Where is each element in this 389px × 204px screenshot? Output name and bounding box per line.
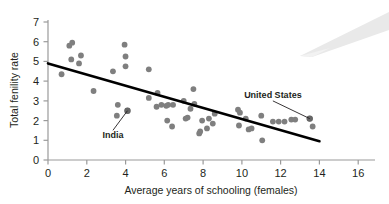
x-tick-label-2: 2 — [84, 167, 90, 179]
axes — [48, 20, 375, 160]
data-point — [282, 119, 288, 125]
data-point — [110, 68, 116, 74]
united-states-label: United States — [244, 90, 302, 100]
data-point — [123, 54, 129, 60]
data-point — [123, 63, 129, 69]
y-tick-label-4: 4 — [33, 75, 39, 87]
y-tick-label-7: 7 — [33, 16, 39, 28]
y-tick-label-5: 5 — [33, 55, 39, 67]
data-point — [114, 113, 120, 119]
india-label: India — [102, 130, 124, 140]
x-axis-title: Average years of schooling (females) — [124, 184, 297, 196]
x-tick-label-16: 16 — [352, 167, 364, 179]
data-point — [259, 137, 265, 143]
data-point — [68, 57, 74, 63]
data-point — [69, 40, 75, 46]
data-point — [164, 118, 170, 124]
y-tick-label-0: 0 — [33, 154, 39, 166]
decorative-streak — [300, 12, 389, 57]
x-tick-label-10: 10 — [236, 167, 248, 179]
y-axis-title: Total fenility rate — [8, 52, 20, 128]
data-point — [197, 129, 203, 135]
x-tick-label-14: 14 — [313, 167, 325, 179]
data-point — [191, 86, 197, 92]
fertility-schooling-scatter-chart: 0 1 2 3 4 5 6 7 0 2 4 6 8 10 12 — [0, 0, 389, 204]
data-point — [78, 53, 84, 59]
data-point — [76, 61, 82, 67]
data-point — [206, 116, 212, 122]
data-point — [170, 102, 176, 108]
data-point — [237, 110, 243, 116]
x-tick-label-8: 8 — [200, 167, 206, 179]
data-point — [188, 106, 194, 112]
y-tick-label-1: 1 — [33, 134, 39, 146]
trend-line — [48, 63, 319, 141]
y-axis-ticks: 0 1 2 3 4 5 6 7 — [33, 16, 48, 166]
data-point — [91, 88, 97, 94]
data-point — [199, 118, 205, 124]
data-point — [292, 117, 298, 123]
x-tick-label-6: 6 — [161, 167, 167, 179]
data-point — [146, 95, 152, 101]
data-point — [115, 102, 121, 108]
data-point — [185, 115, 191, 121]
x-tick-label-4: 4 — [123, 167, 129, 179]
data-point — [204, 126, 210, 132]
chart-canvas: 0 1 2 3 4 5 6 7 0 2 4 6 8 10 12 — [0, 0, 389, 204]
x-tick-label-0: 0 — [45, 167, 51, 179]
data-point — [236, 123, 242, 129]
data-point — [159, 102, 165, 108]
data-point — [249, 126, 255, 132]
y-tick-label-2: 2 — [33, 115, 39, 127]
data-point — [310, 124, 316, 130]
data-point — [122, 42, 128, 48]
data-point — [169, 124, 175, 130]
data-point — [276, 119, 282, 125]
y-tick-label-6: 6 — [33, 36, 39, 48]
united-states-leader-line — [273, 101, 310, 119]
annotation-united-states: United States — [244, 90, 310, 119]
data-point — [146, 66, 152, 72]
x-axis-ticks: 0 2 4 6 8 10 12 14 16 — [45, 160, 364, 179]
y-tick-label-3: 3 — [33, 95, 39, 107]
data-point — [270, 119, 276, 125]
data-point — [59, 71, 65, 77]
x-tick-label-12: 12 — [274, 167, 286, 179]
data-point — [258, 113, 264, 119]
data-point — [210, 121, 216, 127]
